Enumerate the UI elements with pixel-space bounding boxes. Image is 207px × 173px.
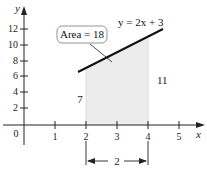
x-tick-label-3: 3 — [115, 131, 120, 142]
area-callout-text: Area = 18 — [60, 28, 105, 40]
x-tick-label-2: 2 — [84, 131, 89, 142]
y-tick-label-4: 4 — [13, 86, 18, 97]
left-height-label: 7 — [77, 93, 83, 105]
shaded-area-region — [86, 37, 148, 125]
width-label: 2 — [114, 155, 120, 167]
y-tick-label-10: 10 — [8, 39, 18, 50]
dimension-arrow-left-icon — [87, 158, 95, 164]
right-height-label: 11 — [157, 74, 168, 86]
chart-canvas: 0 1 2 3 4 5 2 4 6 8 10 12 y x y = 2x + 3… — [0, 0, 207, 173]
x-axis-label: x — [195, 128, 201, 140]
y-axis-label: y — [14, 2, 20, 14]
x-tick-label-0: 0 — [14, 128, 19, 139]
y-tick-label-8: 8 — [13, 55, 18, 66]
x-tick-label-4: 4 — [146, 131, 151, 142]
y-tick-label-6: 6 — [13, 70, 18, 81]
x-tick-label-1: 1 — [53, 131, 58, 142]
y-tick-label-2: 2 — [13, 102, 18, 113]
equation-label: y = 2x + 3 — [118, 16, 164, 28]
y-axis-arrow-icon — [21, 6, 27, 15]
x-tick-label-5: 5 — [177, 131, 182, 142]
y-tick-label-12: 12 — [8, 23, 18, 34]
dimension-arrow-right-icon — [139, 158, 147, 164]
